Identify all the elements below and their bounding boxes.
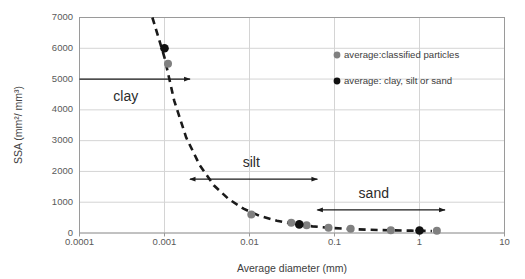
- legend-label: average: clay, silt or sand: [344, 75, 452, 86]
- y-tick-labels: 01000200030004000500060007000: [52, 11, 73, 238]
- data-points: [160, 44, 441, 235]
- x-axis-title: Average diameter (mm): [237, 262, 347, 274]
- y-axis-title: SSA (mm²/ mm³): [12, 86, 24, 164]
- ssa-vs-diameter-chart: 01000200030004000500060007000 0.00010.00…: [0, 0, 525, 279]
- x-tick-label: 0.1: [328, 236, 341, 247]
- region-label-sand: sand: [359, 185, 389, 201]
- data-point: [164, 60, 172, 68]
- x-tick-label: 0.001: [153, 236, 177, 247]
- data-point: [347, 225, 355, 233]
- data-point: [387, 226, 395, 234]
- x-tick-labels: 0.00010.0010.010.1110: [65, 233, 510, 247]
- region-annotations: claysiltsand: [80, 79, 446, 210]
- x-tick-label: 0.0001: [65, 236, 94, 247]
- legend-marker: [334, 52, 341, 59]
- legend-marker: [334, 78, 341, 85]
- data-point: [287, 219, 295, 227]
- region-label-clay: clay: [113, 88, 138, 104]
- legend: average:classified particlesaverage: cla…: [334, 49, 460, 86]
- y-tick-label: 2000: [52, 165, 73, 176]
- y-tick-label: 5000: [52, 73, 73, 84]
- x-tick-label: 0.01: [240, 236, 259, 247]
- y-tick-label: 1000: [52, 196, 73, 207]
- y-tick-label: 3000: [52, 134, 73, 145]
- data-point: [160, 44, 169, 53]
- x-tick-label: 1: [417, 236, 422, 247]
- data-point: [247, 211, 255, 219]
- data-point: [325, 224, 333, 232]
- y-tick-label: 4000: [52, 103, 73, 114]
- chart-canvas: 01000200030004000500060007000 0.00010.00…: [0, 0, 525, 279]
- data-point: [415, 226, 424, 235]
- data-point: [295, 220, 304, 229]
- y-tick-label: 7000: [52, 11, 73, 22]
- x-tick-label: 10: [499, 236, 510, 247]
- legend-label: average:classified particles: [344, 49, 459, 60]
- region-label-silt: silt: [243, 154, 260, 170]
- data-point: [303, 221, 311, 229]
- y-tick-label: 6000: [52, 42, 73, 53]
- data-point: [433, 227, 441, 235]
